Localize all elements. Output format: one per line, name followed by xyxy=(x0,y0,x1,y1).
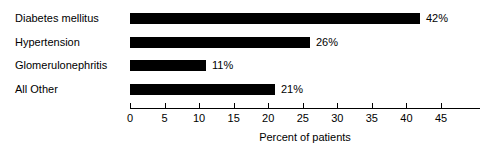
x-axis-tick-label: 20 xyxy=(262,113,274,124)
x-axis-title: Percent of patients xyxy=(259,132,351,143)
x-axis-tick xyxy=(303,103,304,109)
bar xyxy=(130,37,310,48)
bar-value-label: 21% xyxy=(281,84,303,95)
x-axis-tick xyxy=(234,103,235,109)
x-axis-tick xyxy=(372,103,373,109)
x-axis-tick-label: 0 xyxy=(127,113,133,124)
x-axis-tick-label: 45 xyxy=(435,113,447,124)
bar-value-label: 42% xyxy=(426,13,448,24)
bar-chart: Diabetes mellitusHypertensionGlomerulone… xyxy=(0,0,486,154)
x-axis-tick-label: 5 xyxy=(161,113,167,124)
x-axis-tick-label: 25 xyxy=(297,113,309,124)
category-label: Diabetes mellitus xyxy=(15,13,99,24)
x-axis-tick xyxy=(130,103,131,109)
x-axis-tick xyxy=(406,103,407,109)
bar xyxy=(130,13,420,24)
category-label: Glomerulonephritis xyxy=(15,60,107,71)
x-axis-tick-label: 40 xyxy=(400,113,412,124)
x-axis-tick-label: 35 xyxy=(366,113,378,124)
x-axis-tick xyxy=(165,103,166,109)
category-label: Hypertension xyxy=(15,37,80,48)
x-axis-tick xyxy=(199,103,200,109)
x-axis-tick xyxy=(268,103,269,109)
bar xyxy=(130,84,275,95)
x-axis-tick-label: 10 xyxy=(193,113,205,124)
x-axis-line xyxy=(130,108,480,109)
x-axis-tick-label: 15 xyxy=(228,113,240,124)
bar-value-label: 26% xyxy=(316,37,338,48)
x-axis-tick-label: 30 xyxy=(331,113,343,124)
x-axis-tick xyxy=(337,103,338,109)
x-axis-tick xyxy=(441,103,442,109)
bar xyxy=(130,60,206,71)
category-label: All Other xyxy=(15,84,58,95)
bar-value-label: 11% xyxy=(212,60,233,71)
